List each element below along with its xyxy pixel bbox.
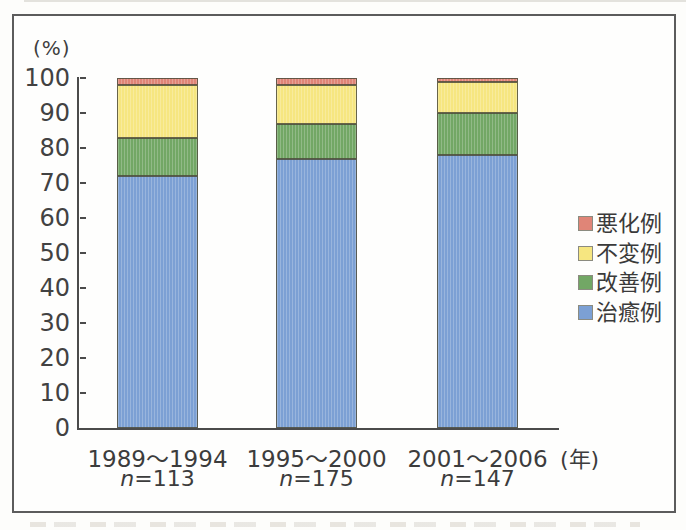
y-tick xyxy=(80,77,86,79)
bar-segment-不変例 xyxy=(437,82,518,114)
legend-label: 治癒例 xyxy=(596,301,662,325)
y-tick-label: 0 xyxy=(18,415,70,441)
legend-swatch-悪化例 xyxy=(578,216,593,231)
bar-segment-不変例 xyxy=(117,85,198,138)
sample-size-label: n=113 xyxy=(68,466,248,490)
y-axis xyxy=(77,77,79,430)
y-tick-label: 80 xyxy=(18,135,70,161)
y-tick-label: 20 xyxy=(18,345,70,371)
y-tick xyxy=(80,322,86,324)
bar-segment-治癒例 xyxy=(276,159,357,429)
y-tick xyxy=(80,112,86,114)
sample-size-label: n=147 xyxy=(388,466,568,490)
bar-segment-不変例 xyxy=(276,85,357,124)
legend-swatch-治癒例 xyxy=(578,305,593,320)
y-tick-label: 30 xyxy=(18,310,70,336)
y-axis-unit-label: (%) xyxy=(33,36,71,60)
y-tick-label: 100 xyxy=(18,65,70,91)
bar-segment-悪化例 xyxy=(276,78,357,85)
bar-segment-改善例 xyxy=(276,124,357,159)
y-tick xyxy=(80,217,86,219)
y-tick xyxy=(80,287,86,289)
x-axis-unit-label: (年) xyxy=(560,441,599,473)
cropped-caption-bottom xyxy=(30,522,640,527)
bar-segment-治癒例 xyxy=(437,155,518,428)
legend-label: 改善例 xyxy=(596,271,662,295)
y-tick xyxy=(80,147,86,149)
category-label: 2001〜2006 xyxy=(388,440,568,464)
y-tick-label: 60 xyxy=(18,205,70,231)
y-tick-label: 50 xyxy=(18,240,70,266)
y-tick-label: 90 xyxy=(18,100,70,126)
bar-segment-悪化例 xyxy=(117,78,198,85)
category-label: 1989〜1994 xyxy=(68,440,248,464)
y-tick xyxy=(80,357,86,359)
bar-segment-治癒例 xyxy=(117,176,198,428)
x-axis xyxy=(77,428,559,430)
bar-segment-改善例 xyxy=(117,138,198,177)
sample-size-label: n=175 xyxy=(227,466,407,490)
y-tick xyxy=(80,252,86,254)
cropped-content-top xyxy=(24,0,686,2)
legend-label: 悪化例 xyxy=(596,212,662,236)
y-tick xyxy=(80,182,86,184)
legend-swatch-改善例 xyxy=(578,275,593,290)
y-tick-label: 40 xyxy=(18,275,70,301)
y-tick xyxy=(80,392,86,394)
category-label: 1995〜2000 xyxy=(227,440,407,464)
legend-swatch-不変例 xyxy=(578,246,593,261)
legend-label: 不変例 xyxy=(596,242,662,266)
bar-segment-改善例 xyxy=(437,113,518,155)
y-tick-label: 10 xyxy=(18,380,70,406)
figure: (%) 1009080706050403020100 1989〜1994n=11… xyxy=(0,0,686,530)
y-tick-label: 70 xyxy=(18,170,70,196)
